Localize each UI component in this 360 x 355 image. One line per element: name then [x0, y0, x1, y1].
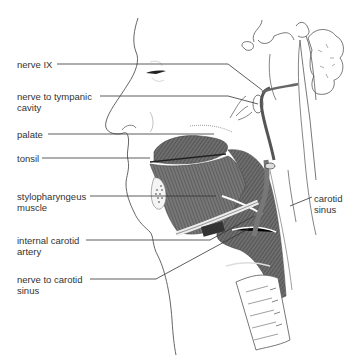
- label-nerve-to-tympanic-cavity: nerve to tympanic cavity: [17, 91, 92, 113]
- label-palate: palate: [17, 129, 43, 140]
- label-nerve-to-carotid-sinus: nerve to carotid sinus: [17, 274, 82, 296]
- anatomy-illustration: nerve IX nerve to tympanic cavity palate…: [0, 0, 360, 355]
- label-stylopharyngeus-muscle: stylopharyngeus muscle: [17, 191, 86, 213]
- leader-nerve-ix: [57, 64, 262, 90]
- cerebellum: [308, 30, 343, 95]
- tongue-muscle: [154, 136, 228, 164]
- eye: [146, 71, 166, 74]
- label-nerve-ix: nerve IX: [17, 59, 52, 70]
- label-internal-carotid-artery: internal carotid artery: [17, 235, 79, 257]
- label-carotid-sinus: carotid sinus: [314, 193, 343, 215]
- leader-carotid-sinus: [290, 197, 312, 206]
- head-neck-drawing: [0, 0, 360, 355]
- leader-tympanic: [100, 96, 258, 104]
- label-tonsil: tonsil: [17, 153, 39, 164]
- nerve-ix-trunk: [261, 88, 274, 160]
